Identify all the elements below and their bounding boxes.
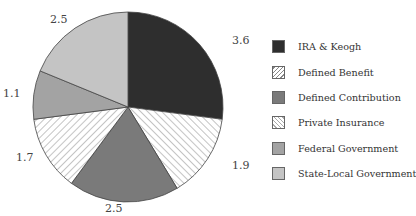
legend: IRA & Keogh Defined Benefit Defined Cont… [272,34,416,186]
label-state-local-government: 2.5 [50,13,68,26]
label-federal-government: 1.1 [3,87,21,100]
swatch-light-gray-icon [272,167,285,180]
legend-item-private-insurance: Private Insurance [272,110,416,135]
legend-item-state-local-government: State-Local Government [272,161,416,186]
pie-slice-ira-keogh [128,12,223,119]
label-defined-benefit: 1.9 [232,159,250,172]
legend-item-defined-contribution: Defined Contribution [272,85,416,110]
legend-item-federal-government: Federal Government [272,136,416,161]
label-defined-contribution: 2.5 [105,202,123,215]
swatch-gray-icon [272,142,285,155]
legend-item-defined-benefit: Defined Benefit [272,59,416,84]
swatch-medium-gray-icon [272,91,285,104]
label-ira-keogh: 3.6 [232,34,250,47]
label-private-insurance: 1.7 [16,151,34,164]
swatch-hatched-back-icon [272,116,285,129]
legend-item-ira-keogh: IRA & Keogh [272,34,416,59]
swatch-dark-icon [272,40,285,53]
swatch-hatched-icon [272,66,285,79]
pie-slices [33,12,223,202]
